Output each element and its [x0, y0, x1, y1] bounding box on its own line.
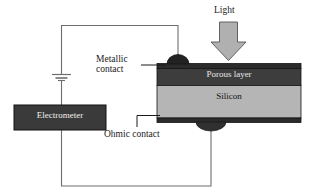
light-label: Light	[214, 6, 235, 16]
metallic-contact-label-line2: contact	[96, 65, 128, 75]
ohmic-contact-label: Ohmic contact	[104, 130, 160, 140]
metallic-contact-dome	[167, 55, 189, 64]
metallic-contact-label: Metallic contact	[96, 55, 128, 75]
silicon-layer-label: Silicon	[157, 92, 301, 101]
ohmic-contact-dome	[196, 122, 226, 131]
diagram-canvas: Light Metallic contact Ohmic contact Por…	[0, 0, 311, 196]
ohmic-leader-line	[137, 116, 160, 128]
bottom-contact-layer	[157, 118, 301, 123]
light-arrow	[211, 22, 246, 61]
electrometer-label: Electrometer	[14, 111, 106, 120]
porous-layer-label: Porous layer	[157, 70, 301, 79]
battery-symbol	[52, 75, 71, 81]
